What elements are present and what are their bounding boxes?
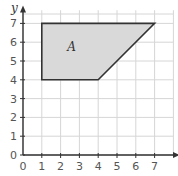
x-tick-label: 2 bbox=[57, 160, 64, 173]
x-tick-label: 5 bbox=[114, 160, 121, 173]
y-tick-label: 4 bbox=[10, 74, 17, 87]
x-tick-label: 7 bbox=[151, 160, 158, 173]
x-tick-label: 1 bbox=[38, 160, 45, 173]
y-axis-label: y bbox=[10, 1, 18, 15]
y-tick-label: 6 bbox=[10, 36, 17, 49]
x-tick-labels: 01234567 bbox=[20, 160, 159, 173]
coordinate-grid: A 01234567 01234567 x y bbox=[0, 0, 178, 176]
y-tick-label: 0 bbox=[10, 149, 17, 162]
y-tick-label: 3 bbox=[10, 93, 17, 106]
y-tick-label: 7 bbox=[10, 17, 17, 30]
y-tick-label: 5 bbox=[10, 55, 17, 68]
shape-a-label: A bbox=[66, 40, 76, 54]
y-tick-label: 1 bbox=[10, 130, 17, 143]
x-tick-label: 4 bbox=[95, 160, 102, 173]
y-tick-labels: 01234567 bbox=[10, 17, 17, 162]
y-tick-label: 2 bbox=[10, 111, 17, 124]
shape-a bbox=[42, 23, 155, 79]
y-axis-arrow-icon bbox=[20, 6, 26, 13]
x-tick-label: 0 bbox=[20, 160, 27, 173]
x-tick-label: 6 bbox=[132, 160, 139, 173]
x-tick-label: 3 bbox=[76, 160, 83, 173]
x-axis-arrow-icon bbox=[173, 152, 178, 158]
